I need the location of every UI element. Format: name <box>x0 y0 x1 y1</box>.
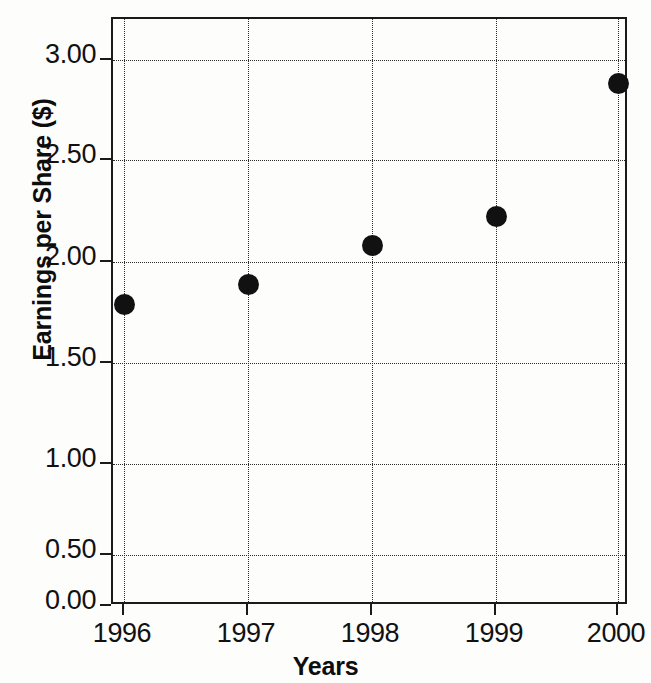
gridline-vertical <box>248 19 249 602</box>
gridline-horizontal <box>113 60 625 61</box>
y-tick-label-2-00: 2.00 <box>8 241 96 272</box>
y-tick-label-0-00: 0.00 <box>8 585 96 616</box>
y-tick-label-3-00: 3.00 <box>8 39 96 70</box>
data-point-2000 <box>608 73 629 94</box>
y-tick-label-0-50: 0.50 <box>8 534 96 565</box>
x-tick-label-1996: 1996 <box>62 618 182 649</box>
gridline-vertical <box>496 19 497 602</box>
y-tick-mark <box>100 604 111 606</box>
data-point-1996 <box>114 294 135 315</box>
x-tick-mark <box>246 604 248 615</box>
x-tick-mark <box>122 604 124 615</box>
gridline-horizontal <box>113 160 625 161</box>
x-axis-title: Years <box>0 652 651 681</box>
x-tick-mark <box>494 604 496 615</box>
chart-figure: Earnings per Share ($) Years 3.002.502.0… <box>0 0 651 683</box>
x-tick-label-1999: 1999 <box>434 618 554 649</box>
gridline-vertical <box>372 19 373 602</box>
x-tick-label-1998: 1998 <box>310 618 430 649</box>
y-tick-label-1-00: 1.00 <box>8 443 96 474</box>
x-tick-mark <box>616 604 618 615</box>
y-tick-mark <box>100 553 111 555</box>
gridline-vertical <box>618 19 619 602</box>
gridline-horizontal <box>113 363 625 364</box>
gridline-horizontal <box>113 262 625 263</box>
y-tick-mark <box>100 158 111 160</box>
x-tick-mark <box>370 604 372 615</box>
gridline-horizontal <box>113 555 625 556</box>
y-tick-mark <box>100 462 111 464</box>
data-point-1998 <box>362 235 383 256</box>
y-tick-mark <box>100 361 111 363</box>
gridline-horizontal <box>113 464 625 465</box>
y-tick-mark <box>100 260 111 262</box>
data-point-1999 <box>486 206 507 227</box>
x-tick-label-1997: 1997 <box>186 618 306 649</box>
y-tick-mark <box>100 58 111 60</box>
plot-area <box>111 17 627 604</box>
y-tick-label-2-50: 2.50 <box>8 139 96 170</box>
y-tick-label-1-50: 1.50 <box>8 342 96 373</box>
x-tick-label-2000: 2000 <box>556 618 651 649</box>
data-point-1997 <box>238 274 259 295</box>
